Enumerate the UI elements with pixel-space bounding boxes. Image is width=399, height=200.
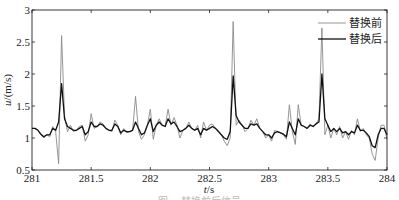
- series-layer: [32, 22, 387, 164]
- legend-label-before: 替换前: [349, 16, 382, 29]
- plot-frame: [32, 10, 387, 170]
- series-before-line: [32, 22, 387, 164]
- y-axis-label: u/(m/s): [1, 74, 14, 106]
- legend: 替换前 替换后: [318, 16, 382, 45]
- x-tick-label: 281.5: [79, 172, 104, 184]
- y-tick-label: 3: [25, 4, 31, 16]
- x-tick-label: 284: [379, 172, 396, 184]
- legend-label-after: 替换后: [349, 32, 382, 45]
- y-tick-label: 1: [25, 132, 31, 144]
- y-tick-label: 1.5: [16, 100, 30, 112]
- y-tick-label: 0.5: [16, 164, 30, 176]
- x-tick-label: 283.5: [315, 172, 340, 184]
- line-chart: 281281.5282282.5283283.52840.511.522.53 …: [0, 0, 399, 200]
- series-after-line: [32, 74, 387, 148]
- y-tick-label: 2: [25, 68, 31, 80]
- x-tick-label: 283: [260, 172, 277, 184]
- ticks-layer: 281281.5282282.5283283.52840.511.522.53: [16, 4, 396, 184]
- figure-caption: 图 ... 替换前后信号: [0, 193, 399, 200]
- y-tick-label: 2.5: [16, 36, 30, 48]
- x-tick-label: 282: [142, 172, 159, 184]
